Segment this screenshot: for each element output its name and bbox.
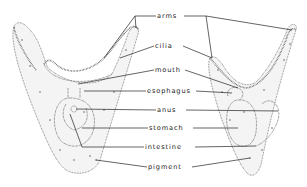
- right-larva-body: [209, 24, 297, 175]
- labels: arms cilia mouth esophagus anus stomach …: [145, 12, 191, 171]
- left-larva: [13, 23, 139, 174]
- right-larva: [209, 24, 297, 175]
- label-esophagus: esophagus: [147, 87, 191, 95]
- label-stomach: stomach: [149, 124, 184, 132]
- label-cilia: cilia: [155, 42, 173, 50]
- label-intestine: intestine: [145, 143, 182, 151]
- larva-diagram: arms cilia mouth esophagus anus stomach …: [0, 0, 307, 187]
- left-larva-body: [13, 23, 139, 174]
- label-mouth: mouth: [155, 66, 181, 74]
- label-arms: arms: [157, 12, 177, 20]
- label-anus: anus: [157, 106, 176, 114]
- label-pigment: pigment: [148, 163, 182, 171]
